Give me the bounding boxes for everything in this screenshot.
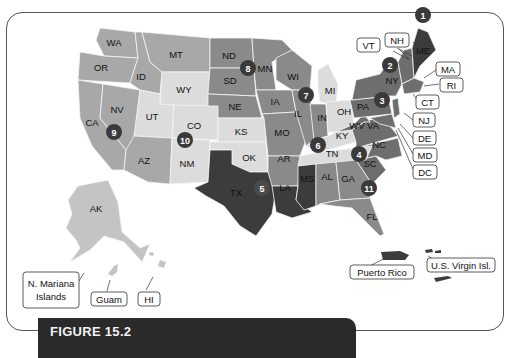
svg-text:RI: RI	[447, 80, 457, 91]
figure-subtitle	[50, 342, 356, 350]
marker-7[interactable]: 7	[298, 87, 314, 103]
label-ms: MS	[300, 173, 314, 184]
marker-8[interactable]: 8	[240, 60, 256, 76]
label-ok: OK	[242, 152, 256, 163]
svg-text:DC: DC	[418, 167, 432, 178]
label-ca: CA	[85, 117, 99, 128]
state-ak[interactable]	[66, 180, 150, 262]
label-me: ME	[416, 45, 430, 56]
state-wi[interactable]	[276, 50, 312, 90]
label-id: ID	[136, 71, 146, 82]
state-nj[interactable]	[392, 98, 400, 118]
label-nv: NV	[110, 104, 124, 115]
svg-text:4: 4	[356, 150, 361, 160]
territory-usvi-3	[434, 276, 452, 282]
label-tx: TX	[230, 187, 243, 198]
leader-ma	[424, 70, 436, 78]
label-ny: NY	[385, 75, 399, 86]
state-hi[interactable]	[158, 260, 166, 268]
marker-1[interactable]: 1	[415, 7, 431, 23]
label-il: IL	[294, 108, 302, 119]
label-sc: SC	[363, 158, 376, 169]
territory-usvi[interactable]	[425, 249, 433, 253]
label-az: AZ	[138, 155, 150, 166]
label-nc: NC	[372, 139, 386, 150]
leader-guam	[107, 280, 110, 291]
label-ar: AR	[277, 153, 290, 164]
svg-text:11: 11	[364, 184, 374, 194]
label-mi: MI	[325, 85, 336, 96]
svg-text:Islands: Islands	[36, 291, 66, 302]
callout-guam[interactable]: Guam	[91, 292, 127, 306]
callout-dc[interactable]: DC	[413, 165, 437, 179]
marker-3[interactable]: 3	[374, 92, 390, 108]
leader-nj	[404, 113, 413, 120]
label-mt: MT	[169, 49, 183, 60]
svg-text:CT: CT	[421, 97, 434, 108]
callout-ma[interactable]: MA	[436, 62, 460, 76]
svg-text:1: 1	[420, 11, 425, 21]
svg-text:DE: DE	[418, 133, 431, 144]
leader-de	[400, 124, 413, 138]
callout-nh[interactable]: NH	[385, 33, 409, 47]
callout-de[interactable]: DE	[413, 131, 436, 145]
svg-text:3: 3	[379, 96, 384, 106]
label-wa: WA	[107, 37, 123, 48]
label-pa: PA	[357, 101, 370, 112]
svg-text:Puerto Rico: Puerto Rico	[357, 267, 407, 278]
label-tn: TN	[326, 148, 339, 159]
callout-vt[interactable]: VT	[357, 38, 380, 52]
svg-text:VT: VT	[362, 40, 374, 51]
callout-md[interactable]: MD	[413, 148, 437, 162]
marker-6[interactable]: 6	[310, 137, 326, 153]
callout-us-virgin-islands[interactable]: U.S. Virgin Isl.	[427, 258, 495, 272]
callout-ri[interactable]: RI	[440, 78, 463, 92]
marker-2[interactable]: 2	[382, 57, 398, 73]
label-sd: SD	[223, 75, 236, 86]
svg-text:9: 9	[111, 128, 116, 138]
label-oh: OH	[337, 106, 351, 117]
label-ia: IA	[271, 96, 281, 107]
state-mi[interactable]	[318, 64, 338, 104]
label-wy: WY	[176, 84, 192, 95]
svg-text:MD: MD	[418, 150, 433, 161]
svg-text:N. Mariana: N. Mariana	[28, 278, 75, 289]
label-ga: GA	[341, 173, 355, 184]
callout-nj[interactable]: NJ	[413, 113, 435, 127]
callout-ct[interactable]: CT	[416, 95, 439, 109]
callout-hi[interactable]: HI	[138, 292, 160, 306]
label-or: OR	[94, 62, 108, 73]
marker-11[interactable]: 11	[361, 180, 377, 196]
label-fl: FL	[366, 211, 377, 222]
territory-puerto-rico[interactable]	[381, 251, 409, 260]
callout-puerto-rico[interactable]: Puerto Rico	[350, 265, 414, 279]
label-ut: UT	[146, 111, 159, 122]
marker-10[interactable]: 10	[177, 132, 193, 148]
svg-text:6: 6	[315, 141, 320, 151]
label-al: AL	[321, 171, 333, 182]
marker-4[interactable]: 4	[351, 146, 367, 162]
svg-text:8: 8	[245, 64, 250, 74]
label-nd: ND	[222, 50, 236, 61]
marker-9[interactable]: 9	[106, 124, 122, 140]
label-wv: WV	[349, 120, 365, 131]
svg-text:7: 7	[303, 91, 308, 101]
marker-5[interactable]: 5	[254, 180, 270, 196]
leader-hi	[146, 277, 153, 290]
callout-n-mariana-islands[interactable]: N. Mariana Islands	[23, 272, 79, 308]
label-ak: AK	[90, 203, 103, 214]
label-ky: KY	[336, 130, 349, 141]
territory-guam[interactable]	[108, 264, 118, 276]
state-ms[interactable]	[296, 164, 316, 210]
label-ne: NE	[228, 101, 241, 112]
label-nm: NM	[180, 158, 195, 169]
figure-label: FIGURE 15.2	[50, 324, 356, 339]
state-hi-small	[149, 252, 154, 256]
label-wi: WI	[287, 71, 299, 82]
label-ks: KS	[235, 126, 248, 137]
label-mn: MN	[258, 63, 273, 74]
svg-text:HI: HI	[144, 294, 154, 305]
territory-usvi-2	[435, 250, 441, 253]
label-va: VA	[367, 120, 380, 131]
